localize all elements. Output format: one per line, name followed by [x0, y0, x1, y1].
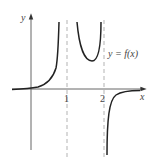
x-axis-label: x — [139, 91, 145, 102]
curve-right-branch — [107, 91, 140, 156]
y-axis-label: y — [20, 12, 26, 23]
curve-middle-branch — [77, 22, 101, 61]
x-tick-1: 1 — [64, 93, 69, 104]
curve-label: y = f(x) — [107, 48, 139, 60]
x-tick-2: 2 — [100, 93, 105, 104]
curve-left-branch — [12, 22, 59, 90]
function-graph: y x 1 2 y = f(x) — [0, 0, 154, 162]
